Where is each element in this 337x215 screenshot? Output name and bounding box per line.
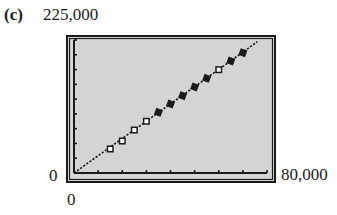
chart-plot-area — [0, 0, 337, 215]
open-square-marker — [132, 127, 138, 132]
filled-square-marker — [167, 100, 175, 108]
open-square-marker — [216, 67, 222, 73]
filled-square-marker — [155, 108, 163, 116]
filled-square-marker — [179, 92, 187, 100]
calculator-window-frame — [66, 35, 276, 183]
filled-square-marker — [191, 83, 199, 91]
filled-square-marker — [227, 57, 235, 65]
open-square-marker — [120, 138, 126, 144]
open-square-marker — [107, 146, 113, 152]
open-square-marker — [144, 119, 150, 125]
filled-square-marker — [239, 49, 247, 57]
filled-square-marker — [203, 74, 211, 82]
